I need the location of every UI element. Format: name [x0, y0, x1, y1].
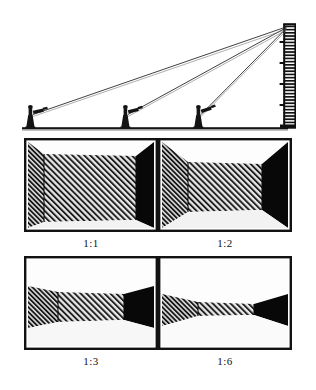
frame-label-1-6: 1:6	[158, 354, 292, 368]
frame-label-1-3: 1:3	[24, 354, 158, 368]
perspective-frame-1-6	[158, 256, 292, 350]
figure-root: 1:1 1:2	[0, 0, 316, 390]
hatched-vertical-wall	[280, 23, 296, 129]
camera-near	[193, 105, 215, 129]
frame-grid: 1:1 1:2	[0, 138, 316, 390]
frame-cell-1-1: 1:1	[24, 138, 158, 250]
camera-mid	[120, 105, 142, 128]
frame-cell-1-2: 1:2	[158, 138, 292, 250]
frame-cell-1-6: 1:6	[158, 256, 292, 368]
frame-label-1-1: 1:1	[24, 236, 158, 250]
perspective-frame-1-2	[158, 138, 292, 232]
top-diagram	[0, 0, 316, 140]
perspective-frame-1-3	[24, 256, 158, 350]
camera-far	[25, 105, 47, 128]
ground-line	[22, 127, 288, 130]
perspective-frame-1-1	[24, 138, 158, 232]
frame-cell-1-3: 1:3	[24, 256, 158, 368]
sight-lines	[33, 27, 286, 117]
frame-label-1-2: 1:2	[158, 236, 292, 250]
